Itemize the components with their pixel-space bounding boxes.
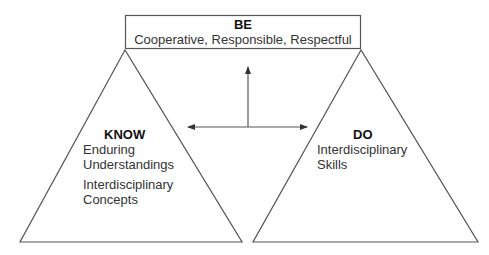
know-line-enduring: Enduring xyxy=(83,142,174,157)
be-title: BE xyxy=(125,17,361,32)
do-label-block: DO Interdisciplinary Skills xyxy=(317,127,407,172)
know-label-block: KNOW Enduring Understandings Interdiscip… xyxy=(83,127,174,207)
do-title: DO xyxy=(353,127,407,142)
do-line-interdisciplinary: Interdisciplinary xyxy=(317,142,407,157)
know-line-understandings: Understandings xyxy=(83,157,174,172)
do-line-skills: Skills xyxy=(317,157,407,172)
know-line-interdisciplinary: Interdisciplinary xyxy=(83,177,174,192)
know-title: KNOW xyxy=(104,127,174,142)
be-box: BE Cooperative, Responsible, Respectful xyxy=(125,15,361,49)
be-subtitle: Cooperative, Responsible, Respectful xyxy=(125,32,361,47)
know-line-concepts: Concepts xyxy=(83,192,174,207)
